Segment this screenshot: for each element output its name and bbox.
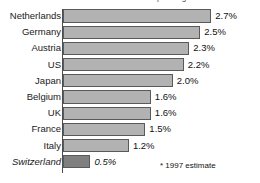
bar <box>63 9 211 22</box>
bar-row: Austria2.3% <box>0 40 260 56</box>
chart-title-text: Total Gross Domestic Product spending on… <box>42 0 260 2</box>
category-label: Japan <box>35 76 61 86</box>
bar-value-label: 2.7% <box>215 11 237 21</box>
bar <box>63 58 184 71</box>
bar-value-label: 1.2% <box>133 141 155 151</box>
bar <box>63 139 129 152</box>
category-label: US <box>48 60 61 70</box>
category-label: UK <box>48 109 61 119</box>
category-label: Germany <box>22 28 61 38</box>
bar-row: UK1.6% <box>0 105 260 121</box>
bar-row: Netherlands2.7% <box>0 8 260 24</box>
category-label: Austria <box>31 44 61 54</box>
bar-row: Italy1.2% <box>0 138 260 154</box>
bar-value-label: 0.5% <box>94 157 116 167</box>
bar-row: Belgium1.6% <box>0 89 260 105</box>
bar-value-label: 2.3% <box>193 44 215 54</box>
category-label: Italy <box>44 141 61 151</box>
bar-row: US2.2% <box>0 57 260 73</box>
bar-value-label: 2.5% <box>204 28 226 38</box>
plot-area: Netherlands2.7%Germany2.5%Austria2.3%US2… <box>0 8 260 174</box>
bar-row: Switzerland0.5% <box>0 154 260 170</box>
bar <box>63 42 189 55</box>
chart-title-cropped: Total Gross Domestic Product spending on… <box>0 0 260 6</box>
bar-value-label: 1.6% <box>155 92 177 102</box>
bar <box>63 74 173 87</box>
bar-chart: Total Gross Domestic Product spending on… <box>0 0 260 183</box>
bar-value-label: 1.6% <box>155 109 177 119</box>
bar-row: Japan2.0% <box>0 73 260 89</box>
bar-value-label: 2.0% <box>177 76 199 86</box>
chart-footnote: * 1997 estimate <box>160 161 216 170</box>
bar-row: Germany2.5% <box>0 24 260 40</box>
bar <box>63 107 151 120</box>
bar-value-label: 1.5% <box>149 125 171 135</box>
category-label: Switzerland <box>12 157 61 167</box>
category-label: Netherlands <box>10 11 61 21</box>
bar-value-label: 2.2% <box>188 60 210 70</box>
category-label: France <box>31 125 61 135</box>
bar-row: France1.5% <box>0 121 260 137</box>
bar <box>63 90 151 103</box>
bar <box>63 123 145 136</box>
bar <box>63 26 200 39</box>
bar <box>63 155 90 168</box>
category-label: Belgium <box>27 92 61 102</box>
